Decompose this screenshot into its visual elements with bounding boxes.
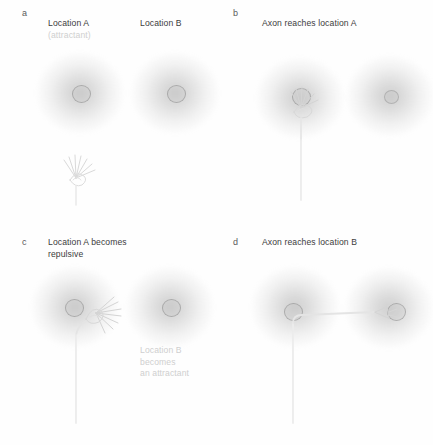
figure-canvas: a Location A (attractant) Location B [0, 0, 433, 445]
panel-b: b Axon reaches location A [217, 0, 433, 222]
panel-a: a Location A (attractant) Location B [0, 0, 216, 222]
neuron-drawing-b [217, 0, 433, 222]
neuron-drawing-c [0, 223, 216, 445]
panel-c: c Location A becomes repulsive Location … [0, 223, 216, 445]
neuron-drawing-d [217, 223, 433, 445]
neuron-drawing-a [0, 0, 216, 222]
panel-d: d Axon reaches location B [217, 223, 433, 445]
